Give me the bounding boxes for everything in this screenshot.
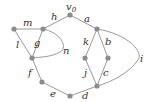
label-m: m bbox=[23, 17, 32, 28]
label-d: d bbox=[82, 90, 88, 101]
label-f: f bbox=[27, 67, 34, 78]
label-j: j bbox=[82, 67, 87, 78]
label-b: b bbox=[105, 36, 111, 47]
node bbox=[40, 26, 45, 31]
node bbox=[94, 26, 99, 31]
edge-f bbox=[32, 58, 42, 82]
label-h: h bbox=[51, 11, 57, 22]
node bbox=[82, 55, 87, 60]
label-l: l bbox=[16, 39, 19, 50]
label-a: a bbox=[84, 13, 90, 24]
edges bbox=[14, 15, 139, 96]
node bbox=[39, 79, 44, 84]
graph-diagram: v0 h a m l g n f e d k b j c i bbox=[0, 0, 147, 102]
node bbox=[29, 55, 34, 60]
node bbox=[67, 93, 72, 98]
label-c: c bbox=[103, 67, 109, 78]
label-e: e bbox=[50, 88, 56, 99]
edge-e bbox=[42, 82, 70, 96]
label-v0: v0 bbox=[66, 1, 77, 14]
node bbox=[11, 26, 16, 31]
label-i: i bbox=[140, 53, 143, 64]
label-k: k bbox=[83, 36, 89, 47]
node bbox=[94, 83, 99, 88]
label-n: n bbox=[63, 45, 69, 56]
node bbox=[105, 55, 110, 60]
label-g: g bbox=[34, 37, 40, 48]
